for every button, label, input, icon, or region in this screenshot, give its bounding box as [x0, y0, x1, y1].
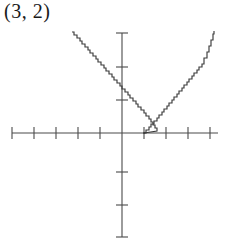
curve-vertex — [143, 132, 145, 134]
curve-left-branch — [72, 32, 157, 133]
graph-figure: (3, 2) — [0, 0, 230, 247]
curve-right-branch — [144, 31, 214, 133]
coordinate-plane — [0, 0, 230, 247]
